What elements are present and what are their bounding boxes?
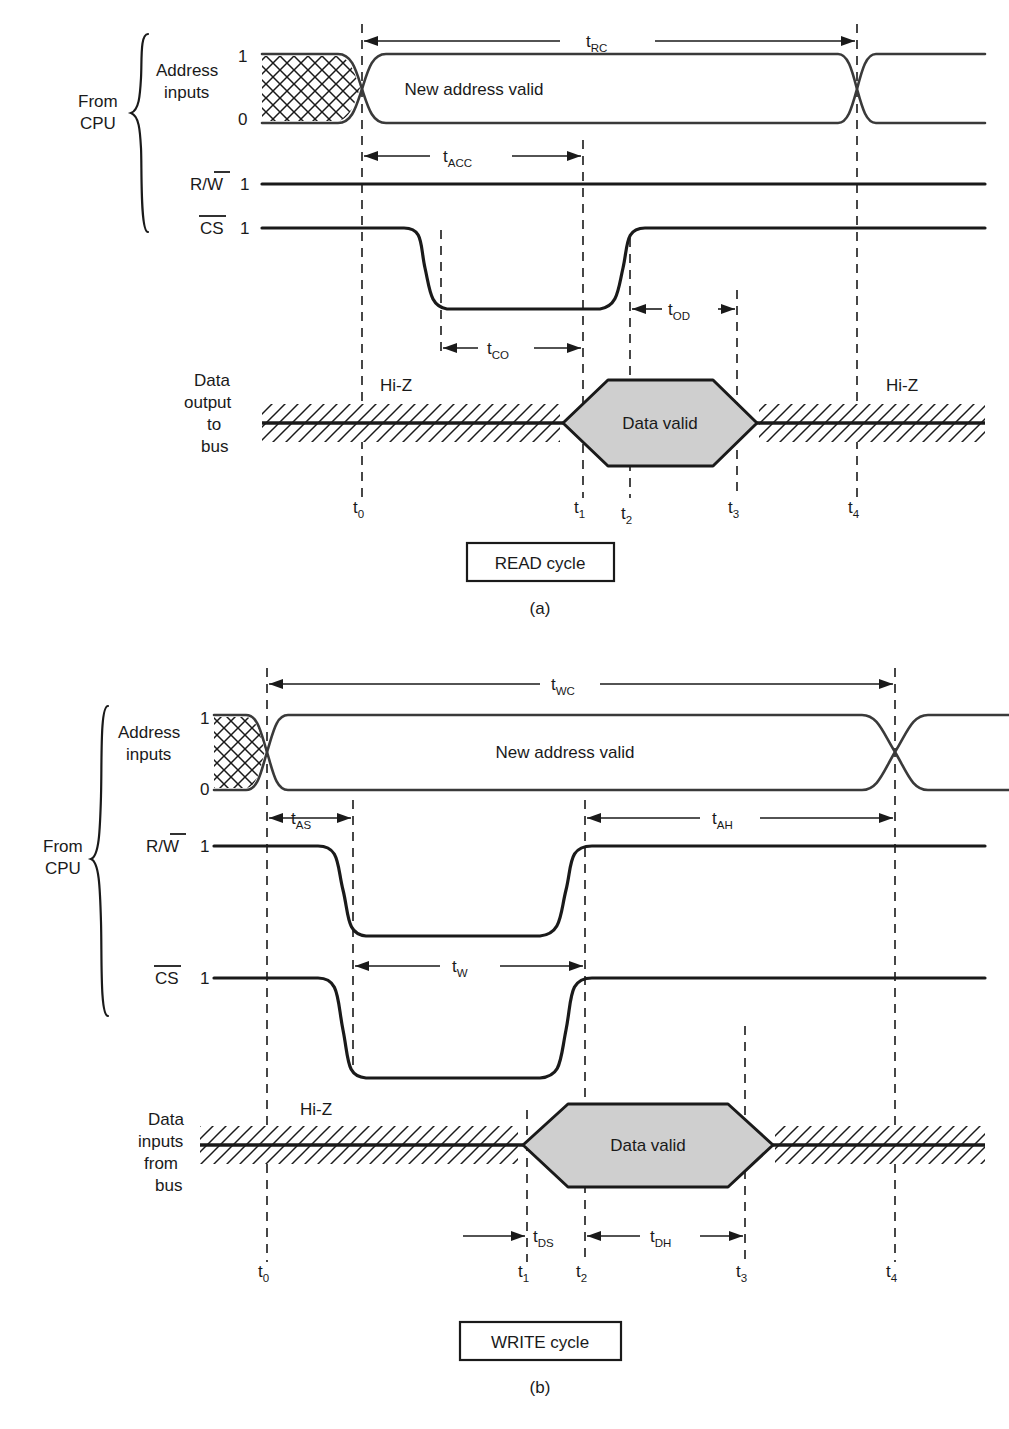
waveform-data-output-read: Data valid Hi-Z Hi-Z	[262, 376, 985, 466]
row-label-chip-select-read: CS 1	[199, 216, 249, 238]
interval-label-t-ah: tAH	[712, 809, 733, 831]
row-label-address-inputs-write-line1: Address	[118, 723, 180, 742]
interval-label-t-acc: tACC	[443, 147, 472, 169]
interval-t-wc: tWC	[269, 675, 893, 697]
level-low-address-read: 0	[238, 110, 247, 129]
row-label-read-write-write-text: R/W	[146, 837, 179, 856]
row-label-data-output-line2: output	[184, 393, 232, 412]
interval-label-t-wc: tWC	[551, 675, 575, 697]
time-marker-t0-read: t0	[353, 498, 364, 520]
interval-label-t-ds: tDS	[533, 1227, 554, 1249]
time-marker-t0-write: t0	[258, 1262, 269, 1284]
interval-t-od: tOD	[632, 300, 735, 322]
row-label-chip-select-read-text: CS	[200, 219, 224, 238]
bus-text-new-address-valid-write: New address valid	[496, 743, 635, 762]
waveform-address-inputs-write: New address valid	[214, 715, 1009, 790]
interval-label-t-as: tAS	[291, 809, 311, 831]
level-high-chip-select-write: 1	[200, 969, 209, 988]
from-cpu-label-read-line2: CPU	[80, 114, 116, 133]
data-valid-text-read: Data valid	[622, 414, 698, 433]
level-high-address-write: 1	[200, 709, 209, 728]
row-label-chip-select-write-text: CS	[155, 969, 179, 988]
interval-t-rc: tRC	[364, 32, 855, 54]
level-high-read-write-write: 1	[200, 837, 209, 856]
write-cycle-caption-text: WRITE cycle	[491, 1333, 589, 1352]
time-marker-t2-write: t2	[576, 1262, 587, 1284]
from-cpu-brace-write: From CPU	[43, 706, 108, 1016]
row-label-chip-select-write: CS 1	[154, 966, 209, 988]
interval-t-dh: tDH	[587, 1227, 743, 1249]
row-label-data-inputs-line3: from	[144, 1154, 178, 1173]
read-cycle-caption-box: READ cycle (a)	[467, 543, 614, 618]
level-high-address-read: 1	[238, 47, 247, 66]
interval-label-t-dh: tDH	[650, 1227, 671, 1249]
from-cpu-brace-read: From CPU	[78, 34, 148, 232]
read-cycle-caption-text: READ cycle	[495, 554, 586, 573]
row-label-data-output-line4: bus	[201, 437, 228, 456]
time-marker-t3-read: t3	[728, 498, 739, 520]
interval-label-t-w: tW	[452, 957, 468, 979]
interval-label-t-co: tCO	[487, 339, 509, 361]
row-label-data-inputs-line4: bus	[155, 1176, 182, 1195]
waveform-read-write-write	[214, 846, 985, 936]
waveform-data-inputs-write: Data valid Hi-Z	[200, 1100, 985, 1187]
interval-t-w: tW	[355, 957, 583, 979]
row-label-address-inputs-read-line1: Address	[156, 61, 218, 80]
interval-t-as: tAS	[269, 809, 351, 831]
read-cycle-section: From CPU Address inputs 1 0 R/W 1 CS 1 D…	[78, 24, 985, 618]
time-marker-t3-write: t3	[736, 1262, 747, 1284]
level-low-address-write: 0	[200, 780, 209, 799]
row-label-data-output-line1: Data	[194, 371, 230, 390]
from-cpu-label-write-line1: From	[43, 837, 83, 856]
address-invalid-hatch-write	[214, 717, 265, 788]
row-label-read-write-read: R/W 1	[190, 172, 249, 194]
interval-t-co: tCO	[443, 339, 581, 361]
row-label-data-inputs-line1: Data	[148, 1110, 184, 1129]
interval-t-ah: tAH	[587, 809, 893, 831]
write-cycle-caption-box: WRITE cycle (b)	[460, 1322, 621, 1397]
from-cpu-label-write-line2: CPU	[45, 859, 81, 878]
row-label-data-inputs-line2: inputs	[138, 1132, 183, 1151]
row-label-read-write-write: R/W 1	[146, 834, 209, 856]
level-high-read-write-read: 1	[240, 175, 249, 194]
hiz-label-right-read: Hi-Z	[886, 376, 918, 395]
time-marker-t4-read: t4	[848, 498, 860, 520]
time-marker-t4-write: t4	[886, 1262, 898, 1284]
diagram-canvas: From CPU Address inputs 1 0 R/W 1 CS 1 D…	[0, 0, 1009, 1429]
time-markers-read: t0 t1 t2 t3 t4	[353, 498, 860, 526]
waveform-chip-select-write	[214, 978, 985, 1078]
interval-label-t-od: tOD	[668, 300, 690, 322]
waveform-chip-select-read	[262, 228, 985, 309]
interval-label-t-rc: tRC	[586, 32, 607, 54]
address-invalid-hatch-read	[262, 56, 360, 121]
time-marker-t1-write: t1	[518, 1262, 529, 1284]
hiz-label-left-read: Hi-Z	[380, 376, 412, 395]
waveform-address-inputs-read: New address valid	[262, 54, 985, 123]
time-marker-t2-read: t2	[621, 504, 632, 526]
level-high-chip-select-read: 1	[240, 219, 249, 238]
from-cpu-label-read-line1: From	[78, 92, 118, 111]
row-label-address-inputs-read-line2: inputs	[164, 83, 209, 102]
timing-diagram-figure: From CPU Address inputs 1 0 R/W 1 CS 1 D…	[0, 0, 1009, 1429]
row-label-read-write-read-text: R/W	[190, 175, 223, 194]
data-valid-text-write: Data valid	[610, 1136, 686, 1155]
time-marker-t1-read: t1	[574, 498, 585, 520]
row-label-data-output-line3: to	[207, 415, 221, 434]
interval-t-ds: tDS	[463, 1227, 554, 1249]
read-cycle-subcaption: (a)	[530, 599, 551, 618]
hiz-label-left-write: Hi-Z	[300, 1100, 332, 1119]
bus-text-new-address-valid-read: New address valid	[405, 80, 544, 99]
interval-t-acc: tACC	[364, 147, 581, 169]
write-cycle-section: From CPU Address inputs 1 0 R/W 1 CS 1 D…	[43, 668, 1009, 1397]
time-markers-write: t0 t1 t2 t3 t4	[258, 1262, 898, 1284]
write-cycle-subcaption: (b)	[530, 1378, 551, 1397]
row-label-address-inputs-write-line2: inputs	[126, 745, 171, 764]
